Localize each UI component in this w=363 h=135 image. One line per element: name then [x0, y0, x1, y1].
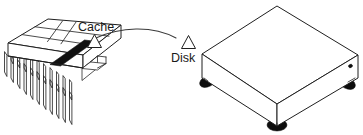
- disk-drive-graphic: [197, 6, 358, 131]
- disk-label: Disk: [171, 51, 196, 65]
- diagram-canvas: Cache Disk: [0, 0, 363, 135]
- disk-triangle-marker: [182, 36, 196, 49]
- cache-label: Cache: [78, 20, 114, 34]
- storage-hierarchy-diagram: Cache Disk: [0, 0, 363, 135]
